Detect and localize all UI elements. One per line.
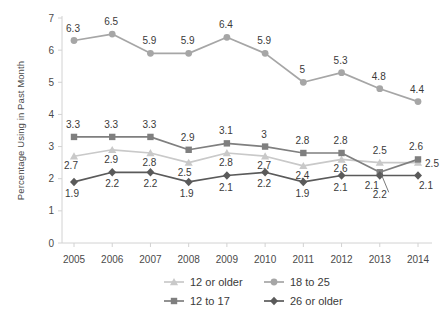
point-value-label: 2.6	[334, 163, 348, 174]
data-point	[108, 168, 116, 177]
chart-legend: 12 or older18 to 2512 to 1726 or older	[164, 276, 343, 307]
x-tick-label: 2012	[330, 254, 353, 265]
point-value-label: 3.1	[219, 125, 233, 136]
data-point	[109, 31, 116, 38]
data-point	[70, 178, 78, 187]
point-value-label: 2.9	[181, 132, 195, 143]
x-tick-label: 2008	[178, 254, 201, 265]
point-value-label: 2.2	[257, 178, 271, 189]
point-value-label: 2.8	[334, 135, 348, 146]
data-point	[147, 50, 154, 57]
legend-marker	[270, 297, 278, 306]
point-value-label: 2.5	[373, 145, 387, 156]
point-value-label: 1.9	[65, 188, 79, 199]
point-value-label: 6.4	[219, 19, 233, 30]
point-value-label: 2.1	[365, 180, 379, 191]
data-point	[224, 140, 230, 146]
point-value-label: 2.1	[419, 180, 433, 191]
point-value-label: 5.9	[142, 35, 156, 46]
data-point	[109, 134, 115, 140]
x-tick-label: 2013	[369, 254, 392, 265]
series-12-or-older	[70, 146, 422, 169]
point-value-label: 2.1	[334, 182, 348, 193]
x-tick-label: 2010	[254, 254, 277, 265]
point-value-label: 2.2	[105, 178, 119, 189]
data-point	[415, 98, 422, 105]
data-point	[147, 134, 153, 140]
y-tick-label: 6	[48, 45, 54, 56]
point-value-label: 2.8	[295, 135, 309, 146]
point-value-label: 2.5	[178, 167, 192, 178]
point-value-label: 3	[261, 129, 267, 140]
x-tick-label: 2014	[407, 254, 430, 265]
point-value-label: 4.8	[372, 71, 386, 82]
point-value-label: 2.7	[64, 160, 78, 171]
data-point	[71, 37, 78, 44]
data-point	[146, 168, 154, 177]
data-point	[223, 34, 230, 41]
data-point	[71, 134, 77, 140]
data-point	[415, 156, 421, 162]
x-tick-label: 2011	[293, 254, 315, 265]
legend-item-label: 12 to 17	[190, 295, 230, 307]
data-point	[185, 178, 193, 187]
x-tick-label: 2007	[139, 254, 162, 265]
data-point	[300, 79, 307, 86]
point-value-label: 4.4	[410, 84, 424, 95]
legend-marker	[171, 298, 177, 304]
point-value-label: 2.8	[219, 157, 233, 168]
x-tick-label: 2005	[63, 254, 86, 265]
data-point	[185, 50, 192, 57]
point-value-label: 2.6	[409, 141, 423, 152]
legend-item-label: 26 or older	[290, 295, 343, 307]
y-tick-label: 0	[48, 238, 54, 249]
series-18-to-25	[71, 31, 422, 105]
y-tick-label: 1	[48, 205, 54, 216]
data-point	[376, 85, 383, 92]
legend-marker	[271, 279, 278, 286]
point-value-label: 3.3	[104, 119, 118, 130]
x-tick-label: 2009	[216, 254, 239, 265]
point-value-label: 2.7	[257, 160, 271, 171]
data-point	[262, 50, 269, 57]
x-tick-label: 2006	[101, 254, 124, 265]
data-point	[414, 171, 422, 180]
point-value-label: 2.2	[143, 178, 157, 189]
data-point	[262, 143, 268, 149]
line-chart: 01234567Percentage Using in Past Month20…	[0, 0, 440, 329]
y-tick-label: 5	[48, 77, 54, 88]
point-value-label: 2.9	[104, 154, 118, 165]
point-value-label: 2.4	[295, 170, 309, 181]
point-value-label: 2.5	[425, 158, 439, 169]
point-value-label: 5.3	[334, 55, 348, 66]
point-value-label: 2.1	[219, 182, 233, 193]
data-point	[300, 150, 306, 156]
y-tick-label: 4	[48, 109, 54, 120]
point-value-label: 2.2	[373, 189, 387, 200]
y-tick-label: 2	[48, 173, 54, 184]
point-value-label: 1.9	[295, 188, 309, 199]
y-axis-title: Percentage Using in Past Month	[15, 61, 26, 200]
point-value-label: 3.3	[142, 119, 156, 130]
point-value-label: 6.3	[66, 23, 80, 34]
data-point	[223, 171, 231, 180]
series-line	[74, 150, 418, 166]
legend-item-label: 18 to 25	[290, 276, 330, 288]
point-value-label: 1.9	[180, 188, 194, 199]
data-point	[338, 69, 345, 76]
y-tick-label: 7	[48, 13, 54, 24]
data-point	[338, 150, 344, 156]
point-value-label: 5	[300, 64, 306, 75]
point-value-label: 5.9	[181, 35, 195, 46]
data-point	[185, 147, 191, 153]
series-line	[74, 34, 418, 102]
point-value-label: 3.3	[66, 119, 80, 130]
chart-container: 01234567Percentage Using in Past Month20…	[0, 0, 440, 329]
legend-item-label: 12 or older	[190, 276, 243, 288]
point-value-label: 6.5	[104, 16, 118, 27]
y-tick-label: 3	[48, 141, 54, 152]
point-value-label: 5.9	[257, 35, 271, 46]
point-value-label: 2.8	[142, 157, 156, 168]
